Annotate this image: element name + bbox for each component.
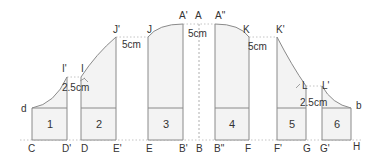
point-label-e: E — [146, 144, 153, 154]
piece-number-6: 6 — [327, 119, 347, 130]
point-label-b-dprime: B" — [214, 144, 224, 154]
point-label-f-prime: F' — [274, 144, 282, 154]
point-label-g: G — [303, 144, 311, 154]
point-label-b-bottom: B — [196, 144, 203, 154]
piece-number-3: 3 — [156, 119, 176, 130]
point-label-k: K — [243, 25, 250, 35]
point-label-k-prime: K' — [276, 25, 285, 35]
piece-number-4: 4 — [222, 119, 242, 130]
point-label-d-prime: D' — [62, 144, 71, 154]
point-label-a-dprime: A" — [215, 11, 225, 21]
piece-number-1: 1 — [40, 119, 60, 130]
piece-6 — [322, 86, 351, 140]
dimension-right-small: 2.5cm — [300, 98, 327, 108]
point-label-b-prime: B' — [179, 144, 188, 154]
piece-number-5: 5 — [282, 119, 302, 130]
point-label-j-prime: J' — [113, 25, 120, 35]
point-label-l-prime: L' — [322, 81, 329, 91]
dimension-left-small: 2.5cm — [62, 83, 89, 93]
point-label-a: A — [195, 11, 202, 21]
point-label-i: I — [81, 64, 84, 74]
point-label-f: F — [245, 144, 251, 154]
piece-number-2: 2 — [89, 119, 109, 130]
point-label-j: J — [147, 25, 152, 35]
dimension-center: 5cm — [188, 29, 207, 39]
point-label-d: d — [21, 104, 27, 114]
point-label-c: C — [28, 144, 35, 154]
point-label-a-prime: A' — [179, 11, 188, 21]
point-label-g-prime: G' — [320, 144, 330, 154]
point-label-d-bottom: D — [81, 144, 88, 154]
dimension-right-large: 5cm — [248, 42, 267, 52]
point-label-e-prime: E' — [113, 144, 122, 154]
dimension-left-large: 5cm — [122, 40, 141, 50]
point-label-i-prime: I' — [62, 64, 67, 74]
point-label-l: L — [302, 81, 308, 91]
point-label-b: b — [356, 101, 362, 111]
point-label-h: H — [353, 142, 360, 152]
